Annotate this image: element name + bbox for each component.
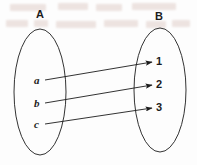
element-label-c: c bbox=[34, 119, 39, 130]
set-a-label: A bbox=[36, 9, 44, 20]
set-a-ellipse bbox=[14, 29, 66, 155]
element-label-b: b bbox=[34, 98, 40, 109]
element-label-2: 2 bbox=[156, 79, 162, 90]
diagram-canvas bbox=[0, 0, 197, 165]
mapping-diagram: A B a b c 1 2 3 bbox=[0, 0, 197, 165]
element-label-3: 3 bbox=[156, 102, 162, 113]
set-b-ellipse bbox=[134, 28, 186, 152]
set-b-label: B bbox=[155, 11, 163, 22]
arrow-a-to-1 bbox=[45, 62, 152, 80]
element-label-a: a bbox=[34, 75, 40, 86]
arrow-b-to-2 bbox=[45, 85, 152, 103]
element-label-1: 1 bbox=[156, 56, 162, 67]
